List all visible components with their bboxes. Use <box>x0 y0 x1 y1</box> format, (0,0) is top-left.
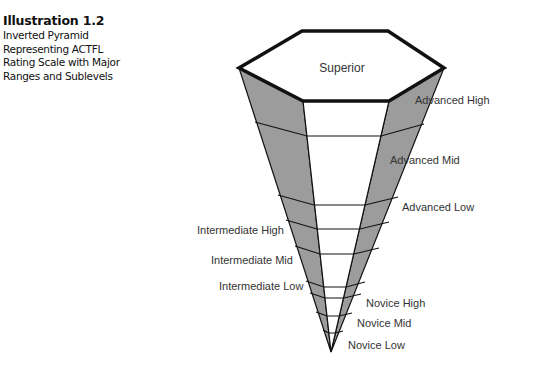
inverted-pyramid-diagram: Superior Advanced High Advanced Mid Adva… <box>0 0 543 374</box>
superior-label: Superior <box>319 61 364 75</box>
label-novice-low: Novice Low <box>348 339 405 351</box>
label-advanced-mid: Advanced Mid <box>390 154 460 166</box>
label-intermediate-low: Intermediate Low <box>219 280 303 292</box>
label-novice-high: Novice High <box>366 297 425 309</box>
label-intermediate-high: Intermediate High <box>197 224 284 236</box>
label-advanced-low: Advanced Low <box>402 201 474 213</box>
label-intermediate-mid: Intermediate Mid <box>211 254 293 266</box>
label-novice-mid: Novice Mid <box>357 317 411 329</box>
label-advanced-high: Advanced High <box>415 94 490 106</box>
